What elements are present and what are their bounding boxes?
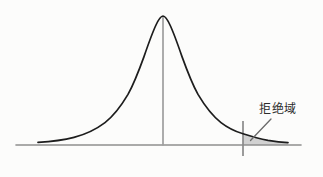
- statistics-figure: 拒绝域: [0, 0, 323, 177]
- normal-distribution-plot: [0, 0, 323, 177]
- plot-background: [0, 0, 323, 177]
- rejection-region-label: 拒绝域: [259, 102, 297, 117]
